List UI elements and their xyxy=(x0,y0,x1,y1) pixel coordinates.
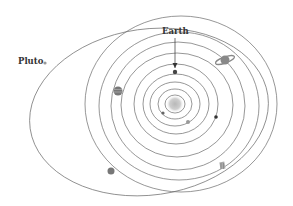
pluto-label: Pluto xyxy=(18,56,43,66)
mercury-icon xyxy=(161,111,164,114)
neptune-icon xyxy=(108,168,115,175)
venus-icon xyxy=(186,120,190,124)
earth-label: Earth xyxy=(162,26,189,36)
saturn-icon xyxy=(215,54,236,66)
uranus-icon xyxy=(219,162,225,170)
sun-icon xyxy=(166,95,184,113)
pluto-orbit xyxy=(19,13,280,206)
mars-icon xyxy=(214,115,218,119)
earth-icon xyxy=(173,70,177,74)
jupiter-icon xyxy=(114,87,123,96)
pluto-icon xyxy=(43,61,46,64)
solar-system-diagram xyxy=(0,0,293,206)
